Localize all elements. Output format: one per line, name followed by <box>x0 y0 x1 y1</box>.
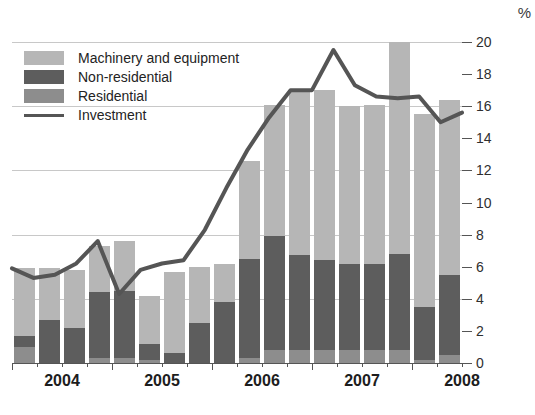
y-tick-0 <box>462 363 472 364</box>
x-tick <box>462 363 463 367</box>
x-tick <box>137 363 138 367</box>
y-tick-6 <box>462 267 472 268</box>
x-tick <box>262 363 263 367</box>
legend-item-res[interactable]: Residential <box>24 86 254 105</box>
legend-item-label: Residential <box>78 88 147 104</box>
y-tick-20 <box>462 42 472 43</box>
y-tick-label: 10 <box>476 196 492 210</box>
y-tick-16 <box>462 106 472 107</box>
x-axis-labels: 20042005200620072008 <box>12 372 474 398</box>
y-tick-18 <box>462 74 472 75</box>
legend-item-label: Machinery and equipment <box>78 50 239 66</box>
legend-item-non[interactable]: Non-residential <box>24 67 254 86</box>
y-tick-label: 4 <box>476 292 484 306</box>
x-axis-label-2004: 2004 <box>44 372 80 390</box>
y-tick-label: 0 <box>476 356 484 370</box>
x-tick <box>237 363 238 367</box>
x-axis-label-2006: 2006 <box>244 372 280 390</box>
y-tick-label: 6 <box>476 260 484 274</box>
y-tick-12 <box>462 170 472 171</box>
x-tick <box>162 363 163 367</box>
x-tick <box>37 363 38 367</box>
x-axis-label-2005: 2005 <box>144 372 180 390</box>
legend-color-swatch <box>24 70 64 84</box>
investment-stacked-bar-chart: % 02468101214161820 20042005200620072008… <box>0 0 535 415</box>
x-tick <box>387 363 388 367</box>
y-tick-label: 16 <box>476 99 492 113</box>
x-tick <box>437 363 438 367</box>
legend-item-line[interactable]: Investment <box>24 105 254 124</box>
legend-item-label: Non-residential <box>78 69 172 85</box>
x-tick <box>187 363 188 367</box>
x-axis-label-2008: 2008 <box>444 372 480 390</box>
y-tick-label: 20 <box>476 35 492 49</box>
x-tick <box>362 363 363 367</box>
chart-title <box>0 0 535 1</box>
y-tick-10 <box>462 203 472 204</box>
legend-item-label: Investment <box>78 107 146 123</box>
x-axis-label-2007: 2007 <box>344 372 380 390</box>
legend-color-swatch <box>24 89 64 103</box>
x-tick <box>312 363 313 370</box>
y-tick-label: 14 <box>476 131 492 145</box>
x-tick <box>12 363 13 370</box>
x-tick <box>287 363 288 367</box>
y-tick-label: 8 <box>476 228 484 242</box>
x-tick <box>412 363 413 370</box>
x-tick <box>112 363 113 370</box>
x-tick <box>337 363 338 367</box>
x-tick <box>87 363 88 367</box>
y-tick-label: 2 <box>476 324 484 338</box>
y-axis-unit-label: % <box>518 4 531 21</box>
x-tick <box>212 363 213 370</box>
y-tick-4 <box>462 299 472 300</box>
legend-line-swatch <box>24 108 64 122</box>
y-axis: 02468101214161820 <box>462 42 532 363</box>
y-tick-8 <box>462 235 472 236</box>
y-tick-2 <box>462 331 472 332</box>
chart-legend: Machinery and equipmentNon-residentialRe… <box>24 48 254 124</box>
y-tick-14 <box>462 138 472 139</box>
legend-item-mach[interactable]: Machinery and equipment <box>24 48 254 67</box>
legend-color-swatch <box>24 51 64 65</box>
y-tick-label: 18 <box>476 67 492 81</box>
y-tick-label: 12 <box>476 163 492 177</box>
x-tick <box>62 363 63 367</box>
